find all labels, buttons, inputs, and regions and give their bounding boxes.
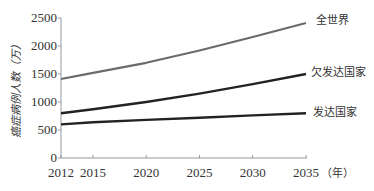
x-axis-unit: （年） — [321, 166, 354, 180]
x-tick-label: 2020 — [133, 165, 159, 180]
x-ticks: 201220152020202520302035 — [48, 155, 319, 180]
series-line-less-developed — [61, 74, 306, 113]
x-tick-label: 2035 — [293, 165, 319, 180]
y-tick-label: 500 — [38, 122, 58, 137]
y-ticks: 05001000150020002500 — [31, 10, 61, 165]
y-tick-label: 1000 — [31, 94, 57, 109]
y-axis-title-text: 癌症病例人数（万） — [10, 39, 23, 138]
x-tick-label: 2030 — [240, 165, 266, 180]
legend-label-developed: 发达国家 — [313, 105, 357, 119]
series-line-developed — [61, 113, 306, 124]
x-tick-label: 2025 — [186, 165, 212, 180]
legend-label-less-developed: 欠发达国家 — [311, 65, 366, 79]
x-tick-label: 2012 — [48, 165, 74, 180]
y-tick-label: 1500 — [31, 66, 57, 81]
y-tick-label: 2000 — [31, 38, 57, 53]
line-chart: 癌症病例人数（万） 05001000150020002500 201220152… — [0, 0, 374, 191]
legend-label-world: 全世界 — [316, 13, 349, 27]
y-tick-label: 2500 — [31, 10, 57, 25]
y-tick-label: 0 — [51, 150, 58, 165]
y-axis-title: 癌症病例人数（万） — [10, 39, 23, 138]
series-lines — [61, 23, 306, 124]
series-line-world — [61, 23, 306, 79]
x-tick-label: 2015 — [80, 165, 106, 180]
